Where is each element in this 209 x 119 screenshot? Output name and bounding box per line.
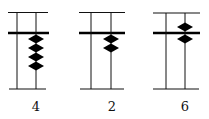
bead (103, 35, 119, 44)
bead (103, 44, 119, 53)
bead (177, 35, 193, 44)
bead (28, 62, 44, 71)
bead (28, 35, 44, 44)
abacus-3 (153, 13, 200, 89)
abacus-2-label: 2 (102, 100, 122, 114)
abacus-3-label: 6 (175, 100, 195, 114)
abacus-1-label: 4 (26, 100, 46, 114)
abacus-2-lower-beads (103, 35, 119, 53)
bead (28, 44, 44, 53)
abacus-2 (79, 13, 125, 90)
bead (28, 53, 44, 62)
abacus-1-lower-beads (28, 35, 44, 71)
abacus-3-lower-beads (177, 35, 193, 44)
abacus-figure: 4 2 6 (0, 0, 209, 119)
bead (177, 23, 193, 32)
abacus-1 (8, 13, 49, 90)
abacus-3-upper-beads (177, 23, 193, 32)
